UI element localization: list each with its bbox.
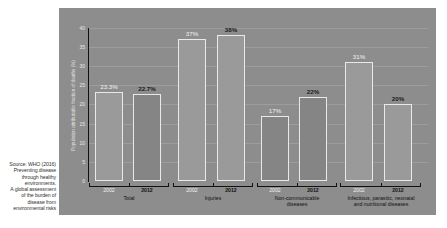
- category-label: Total: [84, 195, 174, 201]
- category-label-line: and nutritional diseases: [336, 201, 426, 207]
- bar-2012: [133, 94, 161, 181]
- category-label-line: Total: [84, 195, 174, 201]
- y-tick-label: 15: [73, 121, 85, 127]
- y-tick-label: 10: [73, 140, 85, 146]
- y-tick-label: 20: [73, 101, 85, 107]
- category-label: Injuries: [168, 195, 258, 201]
- value-label-2012: 22%: [295, 88, 331, 95]
- bar-2012: [384, 104, 412, 181]
- category-label-line: diseases: [252, 201, 342, 207]
- year-label: 2012: [298, 187, 328, 193]
- category-label-line: Injuries: [168, 195, 258, 201]
- year-label: 2002: [260, 187, 290, 193]
- group-bracket-divider: [381, 183, 382, 187]
- year-label: 2002: [344, 187, 374, 193]
- bar-2002: [95, 92, 123, 181]
- gridline: [89, 28, 428, 29]
- bar-2002: [345, 62, 373, 181]
- y-tick-label: 40: [73, 25, 85, 31]
- category-label: Infectious, parasitic, neonataland nutri…: [336, 195, 426, 207]
- value-label-2012: 38%: [213, 26, 249, 33]
- y-axis-line: [88, 28, 89, 182]
- year-label: 2012: [132, 187, 162, 193]
- source-note: Source: WHO (2016)Preventing diseasethro…: [0, 161, 56, 211]
- group-bracket-divider: [213, 183, 214, 187]
- chart-panel: Population attributable fraction of deat…: [59, 8, 436, 215]
- value-label-2012: 22.7%: [129, 85, 165, 92]
- y-tick-label: 30: [73, 63, 85, 69]
- value-label-2002: 37%: [174, 30, 210, 37]
- source-line: environmental risks: [0, 205, 56, 211]
- y-tick-label: 5: [73, 159, 85, 165]
- bar-2002: [178, 39, 206, 181]
- bar-2002: [261, 116, 289, 181]
- group-bracket-divider: [129, 183, 130, 187]
- plot-area: Population attributable fraction of deat…: [59, 8, 436, 215]
- category-label: Non-communicablediseases: [252, 195, 342, 207]
- gridline: [89, 66, 428, 67]
- year-label: 2012: [383, 187, 413, 193]
- value-label-2002: 17%: [257, 107, 293, 114]
- year-label: 2002: [177, 187, 207, 193]
- bar-2012: [217, 35, 245, 181]
- year-label: 2012: [216, 187, 246, 193]
- y-tick-label: 25: [73, 82, 85, 88]
- group-bracket-divider: [297, 183, 298, 187]
- value-label-2002: 23.3%: [91, 83, 127, 90]
- year-label: 2002: [94, 187, 124, 193]
- bar-2012: [299, 97, 327, 181]
- gridline: [89, 47, 428, 48]
- value-label-2012: 20%: [380, 95, 416, 102]
- value-label-2002: 31%: [341, 53, 377, 60]
- y-tick-label: 0: [73, 178, 85, 184]
- y-tick-label: 35: [73, 44, 85, 50]
